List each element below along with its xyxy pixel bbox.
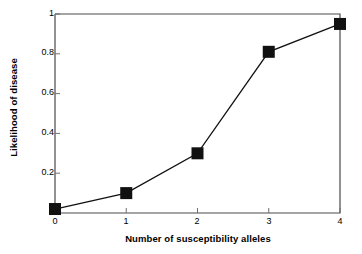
chart-figure: Likelihood of disease Number of suscepti… bbox=[0, 0, 362, 254]
data-point-1 bbox=[120, 187, 132, 199]
axis-ticks bbox=[55, 14, 340, 213]
data-point-3 bbox=[263, 46, 275, 58]
data-point-0 bbox=[49, 203, 61, 215]
data-line bbox=[55, 24, 340, 209]
plot-area bbox=[0, 0, 362, 254]
data-point-4 bbox=[334, 18, 346, 30]
data-point-2 bbox=[192, 147, 204, 159]
data-markers bbox=[49, 18, 346, 215]
axis-frame bbox=[55, 14, 340, 213]
